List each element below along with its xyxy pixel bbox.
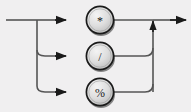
- track-from-slash: [114, 48, 153, 56]
- node-percent[interactable]: %: [86, 78, 115, 108]
- node-slash-circle: [86, 42, 113, 69]
- track-to-percent: [37, 86, 62, 92]
- track-to-slash: [37, 50, 62, 56]
- railroad-diagram-svg: * / %: [0, 0, 191, 112]
- node-asterisk-circle: [86, 6, 113, 33]
- node-slash[interactable]: /: [86, 42, 115, 72]
- node-percent-circle: [86, 78, 113, 105]
- node-asterisk[interactable]: *: [86, 6, 115, 36]
- track-from-percent: [114, 84, 153, 92]
- syntax-diagram-canvas: * / %: [0, 0, 191, 112]
